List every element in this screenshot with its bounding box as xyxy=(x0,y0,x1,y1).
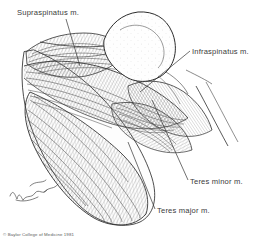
label-supraspinatus: Supraspinatus m. xyxy=(17,9,79,17)
anatomy-figure: Supraspinatus m. Infraspinatus m. Teres … xyxy=(0,0,271,247)
label-infraspinatus: Infraspinatus m. xyxy=(192,48,249,56)
anatomy-illustration xyxy=(0,0,271,247)
copyright-notice: © Baylor College of Medicine 1981 xyxy=(3,233,74,237)
label-teres-minor: Teres minor m. xyxy=(190,178,243,186)
label-teres-major: Teres major m. xyxy=(157,207,210,215)
artist-signature xyxy=(10,180,58,201)
